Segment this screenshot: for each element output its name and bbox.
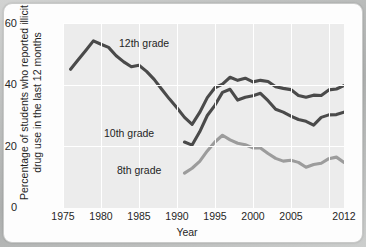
- gridline-vertical: [101, 23, 102, 208]
- y-tick-label: 40: [3, 79, 17, 90]
- gridline-horizontal: [63, 23, 344, 24]
- gridline-vertical: [291, 23, 292, 208]
- x-tick-label: 2000: [233, 211, 273, 222]
- series-lines: [63, 23, 344, 208]
- gridline-vertical: [63, 23, 64, 208]
- y-tick-label: 0: [3, 202, 17, 213]
- gridline-horizontal: [63, 85, 344, 86]
- y-axis-label: Percentage of students who reported illi…: [18, 5, 43, 201]
- y-tick-label: 20: [3, 141, 17, 152]
- x-tick-label: 1980: [81, 211, 121, 222]
- x-tick-label: 1975: [43, 211, 83, 222]
- x-tick-label: 1990: [157, 211, 197, 222]
- gridline-vertical: [253, 23, 254, 208]
- gridline-horizontal: [63, 146, 344, 147]
- gridline-vertical: [215, 23, 216, 208]
- gridline-vertical: [329, 23, 330, 208]
- annotation-12th-grade: 12th grade: [119, 37, 169, 49]
- plot-area: [63, 23, 344, 208]
- series-line-8th-grade: [185, 135, 344, 173]
- x-tick-label: 2005: [271, 211, 311, 222]
- gridline-vertical: [139, 23, 140, 208]
- x-axis-label: Year: [4, 226, 363, 238]
- gridline-vertical: [177, 23, 178, 208]
- x-tick-label: 1985: [119, 211, 159, 222]
- x-tick-label: 2012: [324, 211, 363, 222]
- series-line-12th-grade: [71, 41, 344, 125]
- annotation-10th-grade: 10th grade: [104, 127, 154, 139]
- x-tick-label: 1995: [195, 211, 235, 222]
- figure-card: 60 40 20 0 12th grade 10t: [3, 3, 363, 243]
- line-chart-figure: 60 40 20 0 12th grade 10t: [4, 4, 362, 242]
- y-tick-label: 60: [3, 18, 17, 29]
- annotation-8th-grade: 8th grade: [117, 164, 161, 176]
